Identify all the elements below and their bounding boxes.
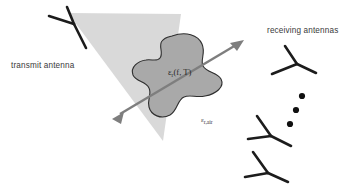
receiving-antenna-1-arm-2 [285,46,297,64]
receiving-antenna-icon-2 [248,116,291,146]
receiving-antenna-icon-1 [272,46,316,74]
propagation-arrow-head-lower-left [112,112,124,124]
propagation-arrow-head-upper-right [230,40,244,51]
receiving-antenna-1-arm-3 [297,64,316,73]
receiving-antenna-3-arm-2 [253,152,268,173]
receiving-antenna-icon-3 [245,152,288,182]
receiving-antenna-1-arm-1 [272,64,297,74]
ellipsis-dot-3 [287,121,293,127]
ellipsis-dot-2 [293,107,299,113]
air-permittivity-label: εr,air [201,116,213,125]
receiving-antennas-label: receiving antennas [267,26,338,35]
transmit-antenna-label: transmit antenna [11,61,75,70]
receiving-antenna-3-arm-3 [268,173,288,182]
ellipsis-dot-1 [299,93,305,99]
receiving-antenna-2-arm-3 [271,136,291,146]
air-permittivity-subscript: r,air [204,119,213,125]
receiving-antenna-2-arm-2 [257,116,271,136]
free-space-measurement-diagram: transmit antenna receiving antennas εr(f… [0,0,354,192]
sample-permittivity-arguments: (f, T) [173,67,191,77]
receiving-antenna-3-arm-1 [245,173,268,177]
receiving-antenna-2-arm-1 [248,136,271,139]
sample-permittivity-label: εr(f, T) [168,67,192,78]
